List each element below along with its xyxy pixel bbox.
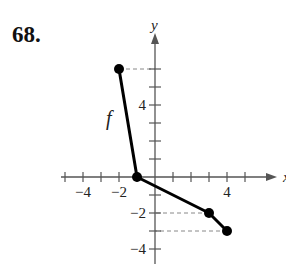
y-tick-label: 4 [139,97,147,113]
point-marker [132,172,142,182]
point-marker [114,64,124,74]
function-graph: −4−244−2−4xyf [0,0,286,264]
function-label: f [106,107,114,130]
x-axis-arrow-icon [266,173,277,181]
y-tick-label: −4 [130,241,146,257]
y-axis-label: y [149,17,158,33]
point-marker [204,208,214,218]
point-marker [222,226,232,236]
x-axis-label: x [282,169,286,185]
x-tick-label: −2 [111,184,127,200]
y-tick-label: −2 [130,205,146,221]
x-tick-label: −4 [75,184,91,200]
y-axis-arrow-icon [151,33,159,44]
x-tick-label: 4 [223,184,231,200]
